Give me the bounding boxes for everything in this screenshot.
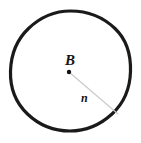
geometry-figure: B n [0,0,141,143]
radius-line [69,72,118,114]
center-label: B [65,53,75,68]
center-point [67,70,71,74]
circle-diagram-canvas [0,0,141,143]
radius-label: n [81,92,88,104]
